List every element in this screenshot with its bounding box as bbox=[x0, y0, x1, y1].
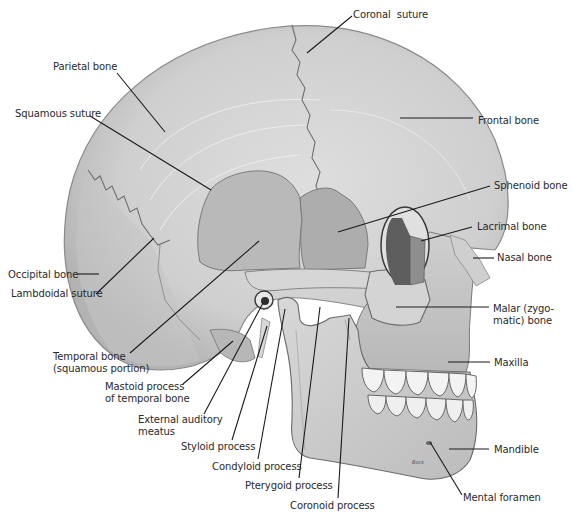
label-mandible: Mandible bbox=[494, 444, 539, 456]
label-pterygoid-process: Pterygoid process bbox=[245, 480, 333, 492]
label-maxilla: Maxilla bbox=[494, 357, 528, 369]
label-condyloid-process: Condyloid process bbox=[212, 461, 302, 473]
label-styloid-process: Styloid process bbox=[181, 441, 255, 453]
external-auditory-meatus-shape bbox=[255, 291, 273, 309]
label-mastoid-process: Mastoid process of temporal bone bbox=[105, 381, 190, 405]
label-occipital-bone: Occipital bone bbox=[8, 269, 78, 281]
label-external-auditory-meatus: External auditory meatus bbox=[138, 414, 223, 438]
artist-signature: Bock bbox=[412, 459, 424, 465]
styloid-shape bbox=[258, 318, 270, 358]
label-malar-bone: Malar (zygo- matic) bone bbox=[493, 303, 554, 327]
label-temporal-bone: Temporal bone (squamous portion) bbox=[53, 351, 149, 375]
label-lacrimal-bone: Lacrimal bone bbox=[477, 221, 547, 233]
label-mental-foramen: Mental foramen bbox=[463, 492, 541, 504]
label-frontal-bone: Frontal bone bbox=[478, 115, 539, 127]
label-lambdoidal-suture: Lambdoidal suture bbox=[11, 288, 103, 300]
orbit bbox=[381, 207, 429, 285]
label-nasal-bone: Nasal bone bbox=[497, 252, 552, 264]
label-parietal-bone: Parietal bone bbox=[53, 61, 117, 73]
label-sphenoid-bone: Sphenoid bone bbox=[494, 180, 568, 192]
mastoid-shape bbox=[210, 329, 255, 362]
label-coronoid-process: Coronoid process bbox=[290, 500, 375, 512]
label-coronal-suture: Coronal suture bbox=[353, 9, 428, 21]
skull-diagram bbox=[0, 0, 573, 521]
label-squamous-suture: Squamous suture bbox=[15, 108, 101, 120]
